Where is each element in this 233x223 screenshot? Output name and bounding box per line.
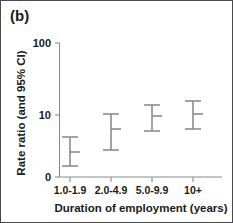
y-tick-label-0: 0 (45, 171, 51, 183)
x-axis-title: Duration of employment (years) (54, 202, 227, 214)
errorbar-group-1 (103, 114, 121, 150)
y-tick-label-100: 100 (33, 37, 51, 49)
errorbar-group-0 (62, 137, 80, 166)
x-tick-label-3: 10+ (184, 184, 202, 196)
x-tick-label-0: 1.0-1.9 (54, 184, 87, 196)
y-axis-title: Rate ratio (and 95% CI) (15, 50, 27, 175)
y-tick-label-10: 10 (39, 109, 51, 121)
chart-canvas: 100 10 0 1.0-1.9 2.0-4.9 5.0-9.9 10+ (1, 1, 233, 223)
figure-panel: (b) 100 10 0 1.0-1.9 2.0-4.9 5.0-9.9 10+ (0, 0, 233, 223)
x-tick-label-1: 2.0-4.9 (95, 184, 128, 196)
errorbar-group-3 (185, 101, 203, 129)
errorbar-group-2 (144, 105, 162, 131)
x-tick-label-2: 5.0-9.9 (136, 184, 169, 196)
